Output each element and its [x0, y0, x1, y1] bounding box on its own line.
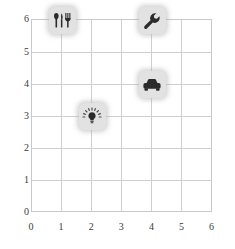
- xtick-label: 5: [179, 222, 184, 232]
- xtick-label: 1: [59, 222, 64, 232]
- gridline-horizontal: [32, 148, 211, 149]
- icon-grid-figure: 0 1 2 3 4 5 6 0 1 2 3 4 5 6: [0, 0, 235, 249]
- gridline-horizontal: [32, 116, 211, 117]
- ytick-label: 0: [24, 207, 29, 217]
- ytick-label: 5: [24, 47, 29, 57]
- marker-car[interactable]: [139, 71, 166, 98]
- xtick-label: 3: [119, 222, 124, 232]
- lightbulb-icon: [82, 107, 102, 127]
- car-icon: [142, 75, 162, 95]
- xtick-label: 0: [29, 222, 34, 232]
- ytick-label: 4: [24, 79, 29, 89]
- xtick-label: 4: [149, 222, 154, 232]
- cutlery-icon: [52, 11, 72, 31]
- ytick-label: 2: [24, 143, 29, 153]
- ytick-label: 1: [24, 175, 29, 185]
- gridline-horizontal: [32, 84, 211, 85]
- ytick-label: 6: [24, 14, 29, 24]
- gridline-horizontal: [32, 52, 211, 53]
- marker-cutlery[interactable]: [49, 7, 76, 34]
- gridline-horizontal: [32, 180, 211, 181]
- marker-lightbulb[interactable]: [79, 103, 106, 130]
- xtick-label: 2: [89, 222, 94, 232]
- wrench-icon: [142, 11, 162, 31]
- xtick-label: 6: [209, 222, 214, 232]
- marker-wrench[interactable]: [139, 7, 166, 34]
- plot-area: [31, 19, 212, 212]
- ytick-label: 3: [24, 111, 29, 121]
